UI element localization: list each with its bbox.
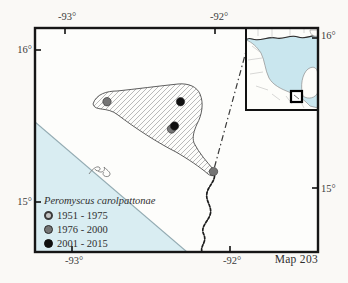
lat-label-left-top: 16°	[11, 44, 32, 55]
legend: Peromyscus carolpattonae 1951 - 1975 197…	[44, 195, 164, 249]
legend-title: Peromyscus carolpattonae	[44, 195, 164, 207]
lat-label-right-bottom: 15°	[321, 183, 336, 194]
legend-item: 1976 - 2000	[44, 223, 164, 235]
lon-label-bottom-right: -92°	[214, 255, 250, 266]
occurrence-point	[103, 98, 111, 106]
lat-label-right-top: 16°	[321, 30, 336, 41]
inset-map	[246, 28, 318, 110]
lat-label-left-bottom: 15°	[11, 196, 32, 207]
occurrence-point	[209, 167, 217, 175]
legend-item: 2001 - 2015	[44, 237, 164, 249]
period-3-marker-icon	[44, 239, 53, 248]
lon-label-top-left: -93°	[49, 11, 85, 22]
legend-item-label: 1951 - 1975	[57, 210, 108, 221]
lon-label-top-right: -92°	[201, 11, 237, 22]
legend-item-label: 1976 - 2000	[57, 224, 108, 235]
legend-item-label: 2001 - 2015	[57, 238, 108, 249]
occurrence-point	[170, 122, 178, 130]
lon-label-bottom-left: -93°	[56, 255, 92, 266]
map-number: Map 203	[266, 254, 318, 265]
occurrence-point	[176, 98, 184, 106]
period-1-marker-icon	[44, 211, 53, 220]
period-2-marker-icon	[44, 225, 53, 234]
legend-item: 1951 - 1975	[44, 209, 164, 221]
map-figure: -93° -92° -93° -92° 16° 15° 16° 15° Map …	[0, 0, 348, 283]
